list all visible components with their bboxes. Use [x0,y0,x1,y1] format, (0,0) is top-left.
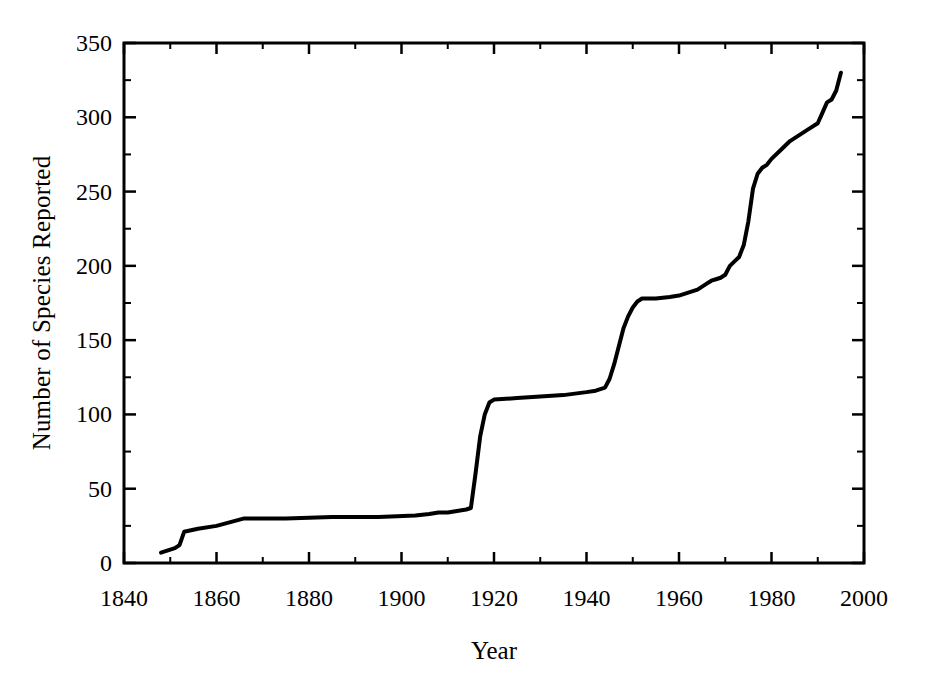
x-tick-label: 1900 [352,585,452,612]
x-tick-label: 1880 [259,585,359,612]
y-tick-label: 300 [42,104,112,131]
y-tick-label: 200 [42,252,112,279]
axis-ticks [124,43,864,563]
data-series [161,73,841,553]
x-tick-label: 1860 [167,585,267,612]
x-tick-label: 1960 [629,585,729,612]
y-tick-label: 50 [42,475,112,502]
chart-figure: Number of Species Reported Year 05010015… [0,0,927,697]
x-tick-label: 1940 [537,585,637,612]
x-tick-label: 1920 [444,585,544,612]
y-tick-label: 250 [42,178,112,205]
axes [124,43,864,563]
y-tick-label: 150 [42,327,112,354]
x-axis-title: Year [124,637,864,665]
x-tick-label: 1840 [74,585,174,612]
y-tick-label: 0 [42,550,112,577]
series-line [161,73,841,553]
y-tick-label: 100 [42,401,112,428]
y-tick-label: 350 [42,30,112,57]
x-tick-label: 1980 [722,585,822,612]
x-tick-label: 2000 [814,585,914,612]
